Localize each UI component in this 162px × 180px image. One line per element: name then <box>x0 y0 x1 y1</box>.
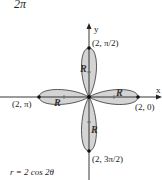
point-top <box>87 46 91 50</box>
point-origin <box>87 95 91 99</box>
region-label-left: R <box>54 98 61 108</box>
point-right <box>136 95 140 99</box>
point-label-bottom: (2, 3π/2) <box>92 155 123 164</box>
rose-curve-diagram <box>0 0 162 180</box>
region-label-bottom: R <box>91 125 98 135</box>
point-label-top: (2, π/2) <box>92 39 119 48</box>
point-bottom <box>87 149 91 153</box>
equation-label: r = 2 cos 2θ <box>10 168 54 177</box>
y-axis-arrow-icon <box>87 23 92 29</box>
point-label-right: (2, 0) <box>135 103 155 112</box>
point-label-left: (2, π) <box>12 100 32 109</box>
y-axis-label: y <box>94 25 99 34</box>
region-label-right: R <box>116 88 123 98</box>
x-axis-arrow-icon <box>156 95 162 100</box>
region-label-top: R <box>80 64 87 74</box>
x-axis-label: x <box>156 86 161 95</box>
top-fragment-text: 2π <box>14 0 26 10</box>
point-left <box>37 95 41 99</box>
